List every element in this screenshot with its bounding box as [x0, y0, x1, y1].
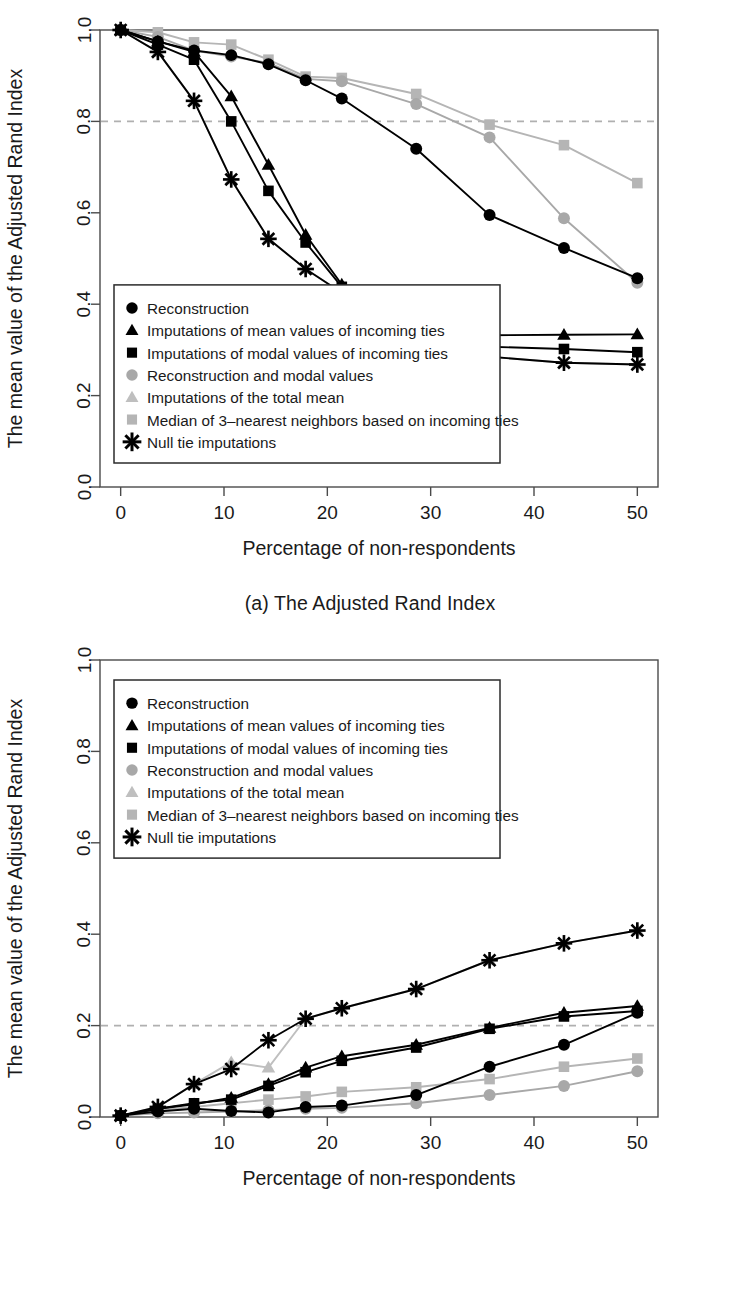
data-point-marker — [126, 764, 137, 775]
legend-item[interactable]: Imputations of the total mean — [126, 389, 345, 406]
legend-item[interactable]: Imputations of mean values of incoming t… — [126, 717, 445, 734]
data-point-marker — [556, 935, 573, 952]
x-tick-label: 30 — [420, 502, 441, 523]
x-tick-label: 10 — [213, 1132, 234, 1153]
data-point-marker — [408, 981, 425, 998]
data-point-marker — [127, 414, 137, 424]
legend-item-label: Imputations of mean values of incoming t… — [147, 717, 445, 734]
legend-item-label: Imputations of the total mean — [147, 389, 344, 406]
data-point-marker — [127, 348, 137, 358]
data-point-marker — [631, 1065, 643, 1077]
y-tick-label: 0.2 — [74, 1012, 95, 1038]
data-point-marker — [186, 1076, 203, 1093]
legend-item[interactable]: Imputations of modal values of incoming … — [127, 740, 448, 757]
data-point-marker — [558, 242, 570, 254]
legend-item[interactable]: Imputations of the total mean — [126, 784, 345, 801]
x-tick-label: 50 — [627, 1132, 648, 1153]
data-point-marker — [559, 140, 570, 151]
x-tick-label: 50 — [627, 502, 648, 523]
data-point-marker — [262, 58, 274, 70]
y-tick-label: 0.6 — [74, 830, 95, 856]
y-tick-label: 0.0 — [74, 1104, 95, 1130]
legend-item-label: Null tie imputations — [147, 434, 277, 451]
y-axis-title: The mean value of the Adjusted Rand Inde… — [4, 69, 26, 449]
x-tick-label: 40 — [523, 1132, 544, 1153]
legend-item[interactable]: Median of 3–nearest neighbors based on i… — [127, 807, 519, 824]
data-point-marker — [123, 828, 142, 847]
panel-a-caption: (a) The Adjusted Rand Index — [0, 592, 740, 615]
legend-item[interactable]: Median of 3–nearest neighbors based on i… — [127, 412, 519, 429]
data-point-marker — [299, 228, 313, 240]
x-axis-title: Percentage of non-respondents — [242, 1167, 515, 1189]
x-tick-label: 20 — [317, 502, 338, 523]
data-point-marker — [337, 1087, 348, 1098]
y-tick-label: 0.0 — [74, 474, 95, 500]
x-tick-label: 40 — [523, 502, 544, 523]
data-point-marker — [297, 261, 314, 278]
data-point-marker — [632, 1053, 643, 1064]
data-point-marker — [126, 697, 137, 708]
data-point-marker — [410, 98, 422, 110]
y-tick-label: 1.0 — [74, 17, 95, 43]
data-point-marker — [481, 952, 498, 969]
legend-item-label: Reconstruction and modal values — [147, 762, 374, 779]
data-point-marker — [632, 347, 643, 358]
legend-item-label: Reconstruction — [147, 300, 249, 317]
legend-item-label: Null tie imputations — [147, 829, 277, 846]
y-tick-label: 0.6 — [74, 200, 95, 226]
data-point-marker — [629, 922, 646, 939]
data-point-marker — [336, 1100, 348, 1112]
legend-item[interactable]: Imputations of modal values of incoming … — [127, 345, 448, 362]
data-point-marker — [631, 999, 645, 1011]
data-point-marker — [262, 1106, 274, 1118]
legend-item-label: Median of 3–nearest neighbors based on i… — [147, 807, 519, 824]
data-point-marker — [484, 119, 495, 130]
x-tick-label: 20 — [317, 1132, 338, 1153]
panel-a: 0.00.20.40.60.81.001020304050Percentage … — [0, 0, 740, 625]
x-tick-label: 0 — [115, 502, 126, 523]
data-point-marker — [126, 302, 137, 313]
data-point-marker — [126, 369, 137, 380]
y-tick-label: 0.8 — [74, 108, 95, 134]
data-point-marker — [263, 1094, 274, 1105]
y-tick-label: 0.4 — [74, 291, 95, 318]
data-point-marker — [225, 1105, 237, 1117]
legend-item-label: Imputations of modal values of incoming … — [147, 345, 448, 362]
y-tick-label: 0.8 — [74, 738, 95, 764]
data-point-marker — [559, 1061, 570, 1072]
legend-item-label: Imputations of mean values of incoming t… — [147, 322, 445, 339]
series-6 — [112, 922, 645, 1124]
data-point-marker — [300, 74, 312, 86]
data-point-marker — [263, 186, 274, 197]
x-tick-label: 0 — [115, 1132, 126, 1153]
plot-b: 0.00.20.40.60.81.001020304050Percentage … — [0, 625, 740, 1250]
legend-item-label: Reconstruction — [147, 695, 249, 712]
data-point-marker — [334, 1000, 351, 1017]
data-point-marker — [186, 93, 203, 110]
data-point-marker — [226, 39, 237, 50]
data-point-marker — [223, 1061, 240, 1078]
legend-item[interactable]: Reconstruction and modal values — [126, 367, 373, 384]
y-tick-label: 0.4 — [74, 921, 95, 948]
legend-item-label: Median of 3–nearest neighbors based on i… — [147, 412, 519, 429]
data-point-marker — [484, 209, 496, 221]
x-tick-label: 10 — [213, 502, 234, 523]
data-point-marker — [223, 171, 240, 188]
legend-item[interactable]: Reconstruction and modal values — [126, 762, 373, 779]
data-point-marker — [297, 1010, 314, 1027]
y-axis-title: The mean value of the Adjusted Rand Inde… — [4, 699, 26, 1079]
legend-item-label: Imputations of the total mean — [147, 784, 344, 801]
data-point-marker — [225, 49, 237, 61]
data-point-marker — [484, 1061, 496, 1073]
legend-item[interactable]: Imputations of mean values of incoming t… — [126, 322, 445, 339]
data-point-marker — [336, 75, 348, 87]
y-tick-label: 0.2 — [74, 382, 95, 408]
data-point-marker — [226, 116, 237, 127]
x-tick-label: 30 — [420, 1132, 441, 1153]
data-point-marker — [336, 93, 348, 105]
chart-a-svg: 0.00.20.40.60.81.001020304050Percentage … — [0, 0, 740, 595]
data-point-marker — [558, 1039, 570, 1051]
data-point-marker — [127, 743, 137, 753]
legend: ReconstructionImputations of mean values… — [114, 285, 519, 463]
data-point-marker — [484, 1089, 496, 1101]
